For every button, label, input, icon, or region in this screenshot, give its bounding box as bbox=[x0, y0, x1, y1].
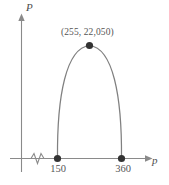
y-axis-arrowhead bbox=[18, 14, 24, 22]
point-vertex bbox=[86, 42, 93, 49]
parabola-graph-figure: P p (255, 22,050) 150 360 bbox=[0, 0, 169, 185]
point-left-root bbox=[54, 155, 61, 162]
x-tick-label-360: 360 bbox=[109, 164, 137, 175]
x-tick-label-150: 150 bbox=[44, 164, 72, 175]
point-right-root bbox=[118, 155, 125, 162]
y-axis-label: P bbox=[26, 2, 33, 13]
parabola-curve bbox=[57, 46, 121, 159]
x-axis-label: p bbox=[152, 155, 158, 166]
vertex-coordinate-label: (255, 22,050) bbox=[61, 28, 114, 38]
